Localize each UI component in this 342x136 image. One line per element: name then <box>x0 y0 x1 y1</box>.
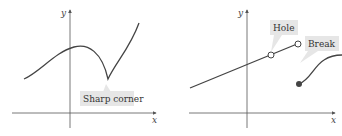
figure: y x Sharp corner y x Hole Break <box>0 0 342 136</box>
line-end-open-point <box>295 41 301 47</box>
left-y-label: y <box>60 8 67 18</box>
right-graph: y x Hole Break <box>189 8 342 128</box>
hole-label: Hole <box>273 23 294 33</box>
left-graph: y x Sharp corner <box>12 8 157 128</box>
break-start-point <box>296 81 302 87</box>
right-y-label: y <box>237 8 244 18</box>
right-line <box>190 44 297 88</box>
hole-callout: Hole <box>270 20 298 52</box>
right-x-label: x <box>331 115 336 125</box>
hole-point <box>268 52 274 58</box>
break-label: Break <box>308 39 336 49</box>
sharp-corner-callout: Sharp corner <box>80 84 144 106</box>
sharp-corner-label: Sharp corner <box>83 94 144 104</box>
break-callout: Break <box>300 36 339 63</box>
left-x-label: x <box>152 115 157 125</box>
left-curve <box>24 23 139 79</box>
